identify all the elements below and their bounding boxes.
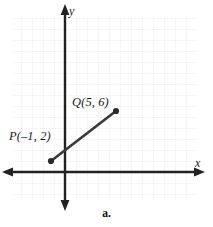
figure-caption: a. — [0, 207, 213, 219]
x-axis-label: x — [195, 156, 200, 171]
coordinate-plane-figure: P(–1, 2) Q(5, 6) y x a. — [0, 0, 213, 227]
y-axis-label: y — [69, 4, 74, 19]
point-Q — [113, 108, 119, 114]
point-label-Q: Q(5, 6) — [72, 95, 109, 110]
plot-canvas — [0, 0, 213, 227]
point-P — [48, 158, 54, 164]
point-label-P: P(–1, 2) — [9, 129, 51, 144]
x-axis-arrow-left — [2, 168, 13, 177]
